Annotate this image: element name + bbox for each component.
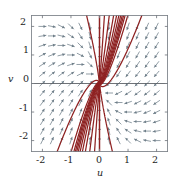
x-axis-title: u <box>97 168 103 178</box>
x-tick-label-m1: -1 <box>64 155 73 165</box>
plot-area <box>31 15 168 152</box>
y-tick-label-2: 2 <box>20 17 26 27</box>
phase-portrait-figure: 2 1 0 -1 -2 -2 -1 0 1 2 v u <box>0 0 188 183</box>
x-tick-label-1: 1 <box>124 155 130 165</box>
y-axis-title: v <box>8 74 13 84</box>
y-tick-label-1: 1 <box>23 45 29 55</box>
x-tick-label-2: 2 <box>152 155 158 165</box>
x-tick-label-m2: -2 <box>36 155 45 165</box>
phase-portrait-canvas <box>31 15 168 152</box>
y-tick-label-m2: -2 <box>19 131 28 141</box>
y-tick-label-m1: -1 <box>19 103 28 113</box>
y-tick-label-0: 0 <box>23 74 29 84</box>
x-tick-label-0: 0 <box>96 155 102 165</box>
